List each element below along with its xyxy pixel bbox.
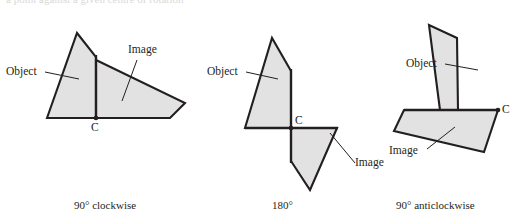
fig3-center-dot bbox=[496, 108, 501, 113]
fig3-center-label: C bbox=[502, 104, 510, 116]
diagram-canvas: a point against a given centre of rotati… bbox=[0, 0, 520, 224]
fig3-caption: 90° anticlockwise bbox=[396, 200, 475, 211]
fig3-image-label: Image bbox=[389, 145, 418, 157]
figure-3-graphics bbox=[0, 0, 520, 224]
fig3-object-label: Object bbox=[406, 58, 437, 70]
